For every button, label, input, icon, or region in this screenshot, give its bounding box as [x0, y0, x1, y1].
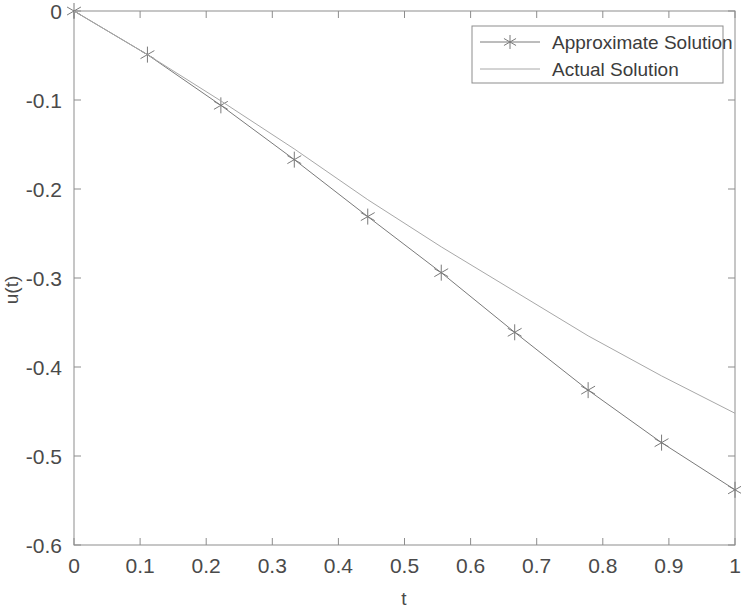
data-point-4: [361, 209, 375, 225]
x-tick-label-4: 0.4: [324, 554, 354, 577]
x-tick-label-8: 0.8: [588, 554, 617, 577]
data-point-3: [287, 152, 301, 168]
chart-plot-area: 00.10.20.30.40.50.60.70.80.91 0-0.1-0.2-…: [0, 0, 741, 616]
x-axis-ticks: [74, 11, 735, 545]
data-point-7: [581, 382, 595, 398]
y-tick-label-3: -0.3: [26, 267, 62, 290]
data-point-2: [214, 97, 228, 113]
axes-frame: [74, 11, 735, 545]
axes-box: [74, 11, 735, 545]
y-axis-tick-labels: 0-0.1-0.2-0.3-0.4-0.5-0.6: [26, 0, 63, 557]
y-tick-label-6: -0.6: [26, 534, 62, 557]
x-axis-tick-labels: 00.10.20.30.40.50.60.70.80.91: [68, 554, 741, 577]
data-point-8: [655, 435, 669, 451]
x-tick-label-0: 0: [68, 554, 80, 577]
x-tick-label-7: 0.7: [522, 554, 551, 577]
y-tick-label-4: -0.4: [26, 356, 63, 379]
data-point-5: [434, 265, 448, 281]
y-axis-ticks: [74, 11, 735, 545]
y-tick-label-2: -0.2: [26, 178, 62, 201]
data-point-9: [728, 482, 741, 498]
x-tick-label-2: 0.2: [192, 554, 221, 577]
x-tick-label-1: 0.1: [125, 554, 154, 577]
x-tick-label-9: 0.9: [654, 554, 683, 577]
x-tick-label-5: 0.5: [390, 554, 419, 577]
y-tick-label-1: -0.1: [26, 89, 62, 112]
y-tick-label-5: -0.5: [26, 445, 62, 468]
chart-legend: Approximate SolutionActual Solution: [472, 26, 733, 83]
x-tick-label-3: 0.3: [258, 554, 287, 577]
x-tick-label-6: 0.6: [456, 554, 485, 577]
y-tick-label-0: 0: [50, 0, 62, 23]
x-tick-label-10: 1: [729, 554, 741, 577]
legend-label-1: Actual Solution: [552, 59, 679, 80]
x-axis-label: t: [401, 588, 407, 609]
data-point-6: [508, 324, 522, 340]
y-axis-label: u(t): [1, 276, 22, 305]
legend-label-0: Approximate Solution: [552, 32, 733, 53]
figure-canvas: 00.10.20.30.40.50.60.70.80.91 0-0.1-0.2-…: [0, 0, 741, 616]
